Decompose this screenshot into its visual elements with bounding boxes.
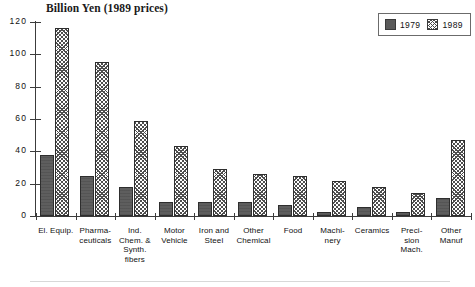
x-tick-mark — [194, 213, 195, 220]
y-tick-label: 80 — [0, 81, 27, 91]
bar-group — [436, 22, 465, 216]
bar-group — [198, 22, 227, 216]
x-axis-label-5: OtherChemical — [232, 226, 276, 245]
x-tick-mark — [234, 213, 235, 220]
chart-title: Billion Yen (1989 prices) — [46, 2, 168, 14]
y-tick-label: 0 — [0, 210, 27, 220]
y-tick-0: 0 — [0, 216, 46, 217]
x-tick-mark — [431, 213, 432, 220]
x-tick-mark — [115, 213, 116, 220]
bar-group — [278, 22, 307, 216]
bar-1989 — [174, 146, 188, 216]
bar-1979 — [40, 155, 54, 216]
x-tick-mark — [273, 213, 274, 220]
bar-group — [40, 22, 69, 216]
bar-1979 — [159, 202, 173, 216]
bar-1989 — [134, 121, 148, 216]
bottom-rule — [30, 281, 450, 282]
bar-group — [238, 22, 267, 216]
x-tick-mark — [36, 213, 37, 220]
x-tick-mark — [76, 213, 77, 220]
bar-group — [317, 22, 346, 216]
bar-1979 — [278, 205, 292, 216]
bar-1989 — [95, 62, 109, 216]
bar-1979 — [119, 187, 133, 216]
x-tick-mark — [352, 213, 353, 220]
x-axis-label-3: MotorVehicle — [153, 226, 197, 245]
bar-1989 — [411, 193, 425, 216]
bar-1989 — [213, 169, 227, 216]
x-axis-label-2: Ind.Chem. &Synth.fibers — [113, 226, 157, 264]
bar-1989 — [372, 187, 386, 216]
x-tick-mark — [313, 213, 314, 220]
bar-1979 — [80, 176, 94, 216]
y-tick-label: 60 — [0, 113, 27, 123]
bar-1979 — [436, 198, 450, 216]
x-axis-label-0: El. Equip. — [34, 226, 78, 236]
plot-area — [36, 22, 471, 216]
x-tick-mark — [471, 213, 472, 220]
x-axis-label-1: Pharma-ceuticals — [74, 226, 118, 245]
bar-1989 — [451, 140, 465, 216]
x-axis-label-9: Preci-sionMach. — [390, 226, 434, 255]
x-axis-line — [35, 216, 471, 217]
bar-1989 — [55, 28, 69, 216]
x-axis-label-6: Food — [271, 226, 315, 236]
y-tick-label: 20 — [0, 178, 27, 188]
y-tick-label: 120 — [0, 16, 27, 26]
bar-1989 — [253, 174, 267, 216]
y-tick-label: 40 — [0, 145, 27, 155]
bar-chart: Billion Yen (1989 prices) 1979 1989 1201… — [0, 0, 475, 287]
bar-1979 — [198, 202, 212, 216]
bar-1979 — [317, 212, 331, 216]
x-axis-label-8: Ceramics — [350, 226, 394, 236]
y-tick-label: 100 — [0, 48, 27, 58]
x-tick-mark — [392, 213, 393, 220]
bar-group — [159, 22, 188, 216]
bar-1989 — [293, 176, 307, 216]
x-axis-label-10: OtherManuf — [429, 226, 473, 245]
bar-group — [119, 22, 148, 216]
bar-group — [396, 22, 425, 216]
x-axis-label-4: Iron andSteel — [192, 226, 236, 245]
bar-group — [357, 22, 386, 216]
bar-group — [80, 22, 109, 216]
bar-1979 — [396, 212, 410, 216]
x-tick-mark — [155, 213, 156, 220]
bar-1979 — [357, 207, 371, 216]
x-axis-label-7: Machi-nery — [311, 226, 355, 245]
bar-1979 — [238, 202, 252, 216]
bar-1989 — [332, 181, 346, 216]
